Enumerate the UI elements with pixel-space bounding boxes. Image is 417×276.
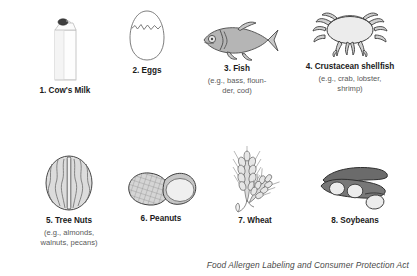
allergen-item-wheat: 7. Wheat <box>212 146 298 227</box>
fish-icon <box>194 16 280 62</box>
allergen-item-eggs: 2. Eggs <box>104 8 190 77</box>
wheat-icon <box>223 146 287 214</box>
milk-carton-icon <box>48 16 82 84</box>
crab-art <box>288 6 412 60</box>
soybean-art <box>300 164 410 214</box>
allergen-label: 1. Cow's Milk <box>6 86 124 97</box>
egg-art <box>104 8 190 64</box>
cracked-egg-icon <box>125 8 169 64</box>
allergen-item-soybeans: 8. Soybeans <box>300 164 410 227</box>
allergen-poster: 1. Cow's Milk 2. Eggs <box>0 0 417 276</box>
allergen-examples: (e.g., crab, lobster,shrimp) <box>288 74 412 94</box>
allergen-label: 7. Wheat <box>212 216 298 227</box>
allergen-examples: (e.g., almonds,walnuts, pecans) <box>8 228 130 248</box>
allergen-label: 3. Fish <box>184 64 290 75</box>
crab-icon <box>311 6 389 60</box>
soybean-pod-icon <box>315 164 395 214</box>
fish-art <box>184 16 290 62</box>
allergen-item-peanuts: 6. Peanuts <box>112 166 210 225</box>
wheat-art <box>212 146 298 214</box>
allergen-label: 2. Eggs <box>104 66 190 77</box>
peanut-icon <box>123 166 199 212</box>
allergen-label: 6. Peanuts <box>112 214 210 225</box>
peanut-art <box>112 166 210 212</box>
allergen-item-crustacean: 4. Crustacean shellfish (e.g., crab, lob… <box>288 6 412 94</box>
footer-note: Food Allergen Labeling and Consumer Prot… <box>0 260 409 270</box>
allergen-label: 8. Soybeans <box>300 216 410 227</box>
allergen-item-fish: 3. Fish (e.g., bass, floun-der, cod) <box>184 16 290 96</box>
allergen-label: 4. Crustacean shellfish <box>288 62 412 73</box>
allergen-examples: (e.g., bass, floun-der, cod) <box>184 76 290 96</box>
walnut-icon <box>40 152 98 214</box>
